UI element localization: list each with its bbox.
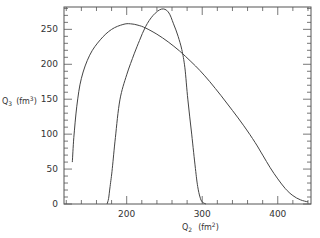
y-axis-label: Q3(fm3)	[2, 95, 37, 107]
chart: 200300400050100150200250 Q3(fm3) Q2(fm2)	[0, 0, 320, 238]
y-tick-label: 0	[52, 199, 58, 209]
tick-labels: 200300400050100150200250	[41, 24, 287, 219]
axis-ticks	[64, 7, 311, 204]
x-tick-label: 200	[118, 209, 135, 219]
y-tick-label: 150	[41, 94, 58, 104]
y-tick-label: 250	[41, 24, 58, 34]
x-axis-label: Q2(fm2)	[182, 221, 219, 233]
x-tick-label: 400	[269, 209, 286, 219]
y-tick-label: 50	[47, 164, 59, 174]
plot-frame	[64, 7, 311, 204]
y-tick-label: 200	[41, 59, 58, 69]
broad-distribution-curve	[72, 24, 308, 202]
narrow-distribution-curve	[107, 9, 206, 204]
y-tick-label: 100	[41, 129, 58, 139]
x-tick-label: 300	[194, 209, 211, 219]
curves	[72, 9, 308, 204]
